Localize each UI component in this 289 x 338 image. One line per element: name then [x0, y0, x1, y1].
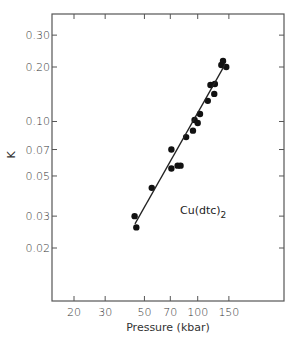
x-tick-label: 150 [218, 306, 239, 319]
data-point [190, 127, 196, 133]
x-axis-ticks: 20305070100150 [67, 14, 239, 319]
data-point [220, 58, 226, 64]
x-tick-label: 50 [137, 306, 151, 319]
data-point [195, 120, 201, 126]
data-point [168, 146, 174, 152]
x-tick-label: 100 [187, 306, 208, 319]
x-tick-label: 30 [98, 306, 112, 319]
y-tick-label: 0.30 [26, 29, 51, 42]
y-tick-label: 0.20 [26, 61, 51, 74]
fit-line [135, 65, 225, 224]
data-point [211, 91, 217, 97]
y-tick-label: 0.05 [26, 170, 51, 183]
y-tick-label: 0.02 [26, 242, 51, 255]
x-tick-label: 20 [67, 306, 81, 319]
x-axis-label: Pressure (kbar) [126, 321, 210, 334]
y-tick-label: 0.03 [26, 210, 51, 223]
data-point [177, 162, 183, 168]
plot-border [52, 14, 284, 301]
data-point [131, 213, 137, 219]
plot-frame [52, 14, 284, 301]
data-point [133, 224, 139, 230]
y-axis-label: K [5, 151, 18, 159]
x-tick-label: 70 [163, 306, 177, 319]
chart: 20305070100150 0.020.030.050.070.100.200… [0, 0, 289, 338]
compound-annotation: Cu(dtc)2 [180, 204, 226, 220]
regression-line [135, 65, 225, 224]
y-tick-label: 0.10 [26, 115, 51, 128]
y-axis-ticks: 0.020.030.050.070.100.200.30 [26, 29, 285, 255]
data-point [168, 165, 174, 171]
y-tick-label: 0.07 [26, 144, 51, 157]
